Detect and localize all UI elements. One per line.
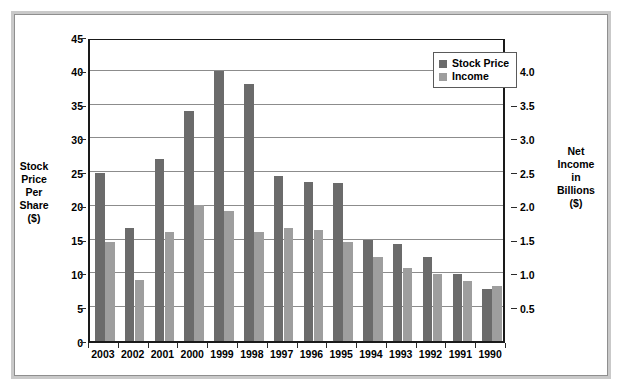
- y-axis-left-tick-mark: [80, 308, 86, 309]
- x-axis-tick-mark: [445, 343, 446, 348]
- bar-income: [492, 286, 502, 341]
- legend-entry: Stock Price: [439, 57, 509, 70]
- x-axis-tick-mark: [297, 343, 298, 348]
- bar-stock-price: [453, 274, 463, 341]
- bar-stock-price: [304, 182, 314, 341]
- bar-stock-price: [214, 71, 224, 341]
- x-axis-tick-mark: [386, 343, 387, 348]
- x-axis-tick-label: 1994: [356, 349, 386, 360]
- bar-income: [343, 242, 353, 341]
- bar-group: [299, 40, 329, 341]
- x-axis-tick-label: 1990: [475, 349, 505, 360]
- x-axis-tick-label: 2000: [177, 349, 207, 360]
- axis-title-line: Per: [10, 186, 58, 199]
- axis-title-line: Net: [549, 145, 603, 158]
- x-axis-tick-mark: [88, 343, 89, 348]
- x-axis-tick-mark: [416, 343, 417, 348]
- y-axis-right-tick-mark: [511, 241, 517, 242]
- x-axis-tick-mark: [118, 343, 119, 348]
- y-axis-right-tick-mark: [511, 106, 517, 107]
- chart-legend: Stock PriceIncome: [433, 52, 517, 88]
- axis-title-line: Billions: [549, 184, 603, 197]
- x-axis-tick-label: 1993: [386, 349, 416, 360]
- bar-income: [284, 228, 294, 341]
- x-axis-tick-mark: [356, 343, 357, 348]
- y-axis-left-tick-mark: [80, 274, 86, 275]
- bar-stock-price: [423, 257, 433, 341]
- bar-group: [358, 40, 388, 341]
- x-axis-tick-mark: [207, 343, 208, 348]
- x-axis-tick-label: 1997: [267, 349, 297, 360]
- x-axis-tick-label: 1992: [416, 349, 446, 360]
- legend-label: Income: [452, 71, 489, 82]
- bar-stock-price: [184, 111, 194, 341]
- x-axis-tick-mark: [475, 343, 476, 348]
- x-axis-tick-label: 2003: [88, 349, 118, 360]
- bar-income: [314, 230, 324, 341]
- y-axis-right-tick-label: 1.5: [520, 236, 548, 247]
- bar-income: [105, 242, 115, 341]
- axis-title-line: Share: [10, 199, 58, 212]
- y-axis-right-title: NetIncomeinBillions($): [549, 145, 603, 210]
- bar-stock-price: [482, 289, 492, 341]
- x-axis-tick-label: 1999: [207, 349, 237, 360]
- y-axis-left-tick-mark: [80, 342, 86, 343]
- x-axis-tick-label: 1996: [296, 349, 326, 360]
- x-axis-tick-label: 2001: [147, 349, 177, 360]
- y-axis-right-tick-label: 0.5: [520, 304, 548, 315]
- axis-title-line: Income: [549, 158, 603, 171]
- bar-group: [179, 40, 209, 341]
- bar-income: [194, 205, 204, 341]
- bar-stock-price: [274, 176, 284, 341]
- bar-income: [403, 268, 413, 341]
- bar-income: [135, 280, 145, 341]
- y-axis-left-tick-mark: [80, 38, 86, 39]
- y-axis-left-tick-mark: [80, 72, 86, 73]
- y-axis-left-title: StockPricePerShare($): [10, 160, 58, 225]
- bar-stock-price: [363, 240, 373, 341]
- y-axis-right-tick-label: 2.0: [520, 202, 548, 213]
- legend-swatch: [439, 73, 447, 81]
- bar-stock-price: [95, 173, 105, 341]
- y-axis-right-tick-mark: [511, 173, 517, 174]
- axis-title-line: in: [549, 171, 603, 184]
- axis-title-line: ($): [10, 212, 58, 225]
- x-axis-tick-mark: [326, 343, 327, 348]
- axis-title-line: ($): [549, 197, 603, 210]
- bar-income: [224, 211, 234, 341]
- y-axis-right-tick-label: 3.0: [520, 135, 548, 146]
- y-axis-right-tick-label: 1.0: [520, 270, 548, 281]
- chart-figure: StockPricePerShare($) NetIncomeinBillion…: [0, 0, 622, 390]
- x-axis-tick-label: 2002: [118, 349, 148, 360]
- y-axis-right-tick-label: 4.0: [520, 67, 548, 78]
- bar-stock-price: [393, 244, 403, 341]
- x-axis-tick-mark: [177, 343, 178, 348]
- bar-group: [150, 40, 180, 341]
- legend-swatch: [439, 60, 447, 68]
- y-axis-right-tick-mark: [511, 274, 517, 275]
- bar-income: [463, 281, 473, 341]
- bar-group: [239, 40, 269, 341]
- bar-income: [254, 232, 264, 341]
- y-axis-right-tick-mark: [511, 207, 517, 208]
- legend-label: Stock Price: [452, 58, 509, 69]
- axis-title-line: Price: [10, 173, 58, 186]
- y-axis-left-tick-mark: [80, 241, 86, 242]
- bar-group: [120, 40, 150, 341]
- y-axis-left-tick-mark: [80, 106, 86, 107]
- y-axis-right-tick-mark: [511, 308, 517, 309]
- bar-stock-price: [125, 228, 135, 341]
- y-axis-left-tick-mark: [80, 173, 86, 174]
- axis-title-line: Stock: [10, 160, 58, 173]
- legend-entry: Income: [439, 70, 509, 83]
- x-axis-tick-label: 1998: [237, 349, 267, 360]
- x-axis-tick-mark: [237, 343, 238, 348]
- y-axis-left-tick-mark: [80, 139, 86, 140]
- bar-group: [388, 40, 418, 341]
- bar-stock-price: [155, 159, 165, 341]
- bar-group: [209, 40, 239, 341]
- x-axis-tick-mark: [505, 343, 506, 348]
- bar-group: [269, 40, 299, 341]
- bar-income: [165, 232, 175, 341]
- x-axis-tick-label: 1995: [326, 349, 356, 360]
